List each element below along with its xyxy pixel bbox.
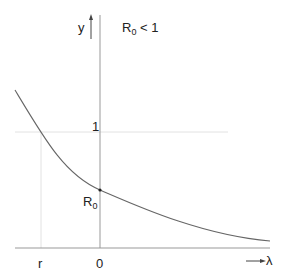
x-axis-label: λ (266, 253, 273, 268)
point-r0 (98, 188, 101, 191)
y-arrowhead-icon (89, 14, 93, 20)
diagram-canvas (0, 0, 286, 280)
x-tick-r: r (38, 256, 42, 271)
x-tick-zero: 0 (96, 256, 103, 271)
y-axis-label: y (78, 20, 85, 35)
tick-label-one: 1 (92, 119, 99, 134)
decay-curve (15, 90, 270, 241)
condition-label: R0 < 1 (122, 20, 158, 35)
point-label-r0: R0 (83, 194, 97, 209)
